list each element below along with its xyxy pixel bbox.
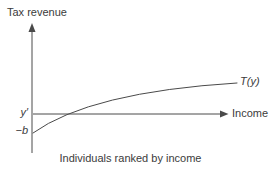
x-axis-right-arrowhead-icon xyxy=(220,111,229,118)
x-axis-title: Income xyxy=(232,107,268,120)
y-prime-label: y′ xyxy=(10,106,28,119)
y-axis-title: Tax revenue xyxy=(7,6,67,19)
y-axis-up-arrowhead-icon xyxy=(29,23,36,32)
curve-label: T(y) xyxy=(240,75,260,88)
minus-b-label: −b xyxy=(8,124,28,137)
figure-plot xyxy=(0,0,275,174)
figure-canvas: Tax revenue y′ −b T(y) Income Individual… xyxy=(0,0,275,174)
figure-caption: Individuals ranked by income xyxy=(0,152,261,165)
tax-revenue-curve xyxy=(33,83,237,133)
